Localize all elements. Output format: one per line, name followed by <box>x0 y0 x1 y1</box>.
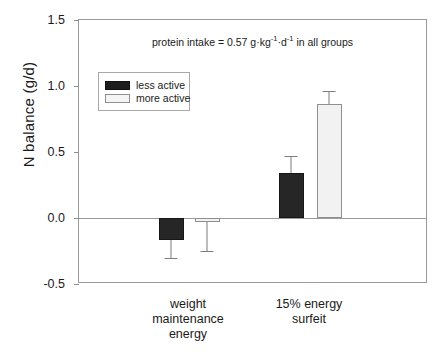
legend-item-more-active: more active <box>105 92 183 104</box>
x-category-label-2: 15% energysurfeit <box>239 297 379 327</box>
y-tick-mark: 1.5 <box>74 20 79 21</box>
error-bar-more-active-group-2 <box>319 91 339 104</box>
y-tick-label: 1.5 <box>48 13 65 27</box>
y-tick-label: -0.5 <box>43 277 65 291</box>
legend-label-more-active: more active <box>136 92 190 104</box>
error-bar-cap <box>201 251 214 252</box>
y-tick-mark: 0.5 <box>74 152 79 153</box>
y-axis-title: N balance (g/d) <box>20 35 37 195</box>
error-bar-cap <box>323 91 336 92</box>
legend-swatch-icon-less-active <box>105 81 130 90</box>
y-tick-label: 0.5 <box>48 145 65 159</box>
plot-area: -0.50.00.51.01.5 <box>78 19 427 283</box>
error-bar-stem <box>171 240 172 258</box>
y-tick-mark: 0.0 <box>74 218 79 219</box>
y-tick-mark: 1.0 <box>74 86 79 87</box>
chart-annotation: protein intake = 0.57 g·kg-1·d-1 in all … <box>78 34 427 48</box>
y-tick-label: 1.0 <box>48 79 65 93</box>
error-bar-stem <box>329 91 330 104</box>
bar-less-active-group-2 <box>279 173 304 218</box>
y-tick-mark: -0.5 <box>74 284 79 285</box>
x-category-label-line: energy <box>118 327 258 342</box>
error-bar-less-active-group-2 <box>281 156 301 173</box>
x-category-label-line: surfeit <box>239 312 379 327</box>
error-bar-cap <box>285 156 298 157</box>
annotation-suffix: in all groups <box>293 36 353 48</box>
x-category-label-line: maintenance <box>118 312 258 327</box>
x-category-label-line: 15% energy <box>239 297 379 312</box>
x-category-label-1: weightmaintenanceenergy <box>118 297 258 342</box>
y-tick-label: 0.0 <box>48 211 65 225</box>
error-bar-cap <box>165 258 178 259</box>
error-bar-less-active-group-1 <box>161 240 181 258</box>
x-category-label-line: weight <box>118 297 258 312</box>
chart-legend: less active more active <box>98 72 190 111</box>
chart-figure: N balance (g/d) -0.50.00.51.01.5 protein… <box>0 0 446 352</box>
error-bar-stem <box>291 156 292 173</box>
error-bar-stem <box>207 222 208 252</box>
legend-swatch-icon-more-active <box>105 94 130 103</box>
error-bar-more-active-group-1 <box>197 222 217 252</box>
annotation-middle: ·d <box>277 36 286 48</box>
legend-item-less-active: less active <box>105 79 183 91</box>
zero-reference-line <box>79 218 426 219</box>
bar-less-active-group-1 <box>159 218 184 240</box>
annotation-prefix: protein intake = 0.57 g·kg <box>152 36 271 48</box>
bar-more-active-group-2 <box>317 104 342 218</box>
legend-label-less-active: less active <box>136 79 185 91</box>
